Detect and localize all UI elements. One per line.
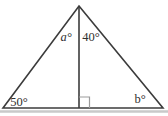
angle-label-50: 50°	[10, 95, 28, 109]
right-angle-mark	[79, 97, 90, 108]
diagram-canvas: a° 40° 50° b°	[0, 0, 168, 116]
angle-label-a: a°	[60, 30, 71, 44]
angle-label-40: 40°	[82, 30, 100, 44]
triangle-diagram: a° 40° 50° b°	[0, 0, 168, 116]
angle-label-b: b°	[134, 92, 145, 106]
